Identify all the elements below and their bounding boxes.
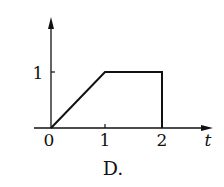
x-tick-label-1: 1 [100, 130, 111, 150]
piecewise-graph: 1 0 1 2 t D. [0, 0, 224, 187]
graph-line [51, 72, 162, 128]
x-axis-label: t [205, 130, 212, 150]
x-tick-label-2: 2 [157, 130, 168, 150]
y-axis-arrow-icon [48, 17, 54, 29]
caption: D. [103, 157, 124, 179]
origin-label: 0 [44, 130, 55, 150]
y-tick-label-1: 1 [33, 63, 44, 83]
